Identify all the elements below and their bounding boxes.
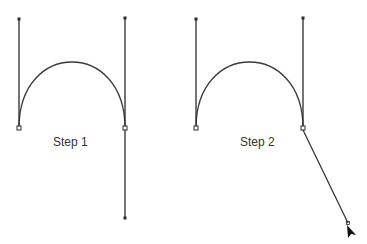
step-1-right-anchor-point[interactable] — [123, 126, 127, 130]
step-2-left-anchor-point[interactable] — [194, 126, 198, 130]
bezier-pen-tool-diagram — [0, 0, 367, 244]
step-2-drag-line — [303, 130, 348, 223]
step-2-right-anchor-point[interactable] — [301, 126, 305, 130]
step-1-group — [17, 17, 127, 220]
step-2-label: Step 2 — [240, 135, 275, 149]
step-1-label: Step 1 — [53, 135, 88, 149]
arrow-cursor-icon — [347, 225, 356, 238]
step-1-left-anchor-point[interactable] — [17, 126, 21, 130]
step-1-left-handle-point[interactable] — [18, 18, 21, 21]
step-1-right-handle-top-point[interactable] — [124, 17, 127, 20]
step-1-right-handle-bottom-point[interactable] — [124, 217, 127, 220]
step-2-right-handle-top-point[interactable] — [302, 17, 305, 20]
step-2-group — [194, 17, 356, 239]
step-1-curve — [19, 62, 125, 128]
step-2-curve — [196, 62, 303, 128]
step-2-left-handle-point[interactable] — [195, 18, 198, 21]
